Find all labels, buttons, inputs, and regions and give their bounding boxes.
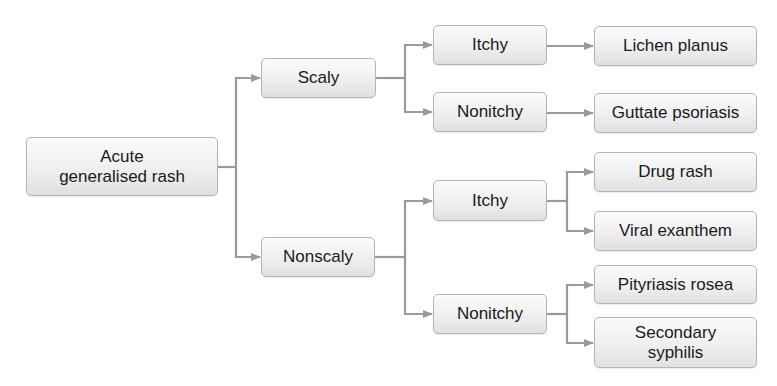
node-label: Nonitchy [457, 102, 523, 122]
node-label: Nonitchy [457, 304, 523, 324]
node-acute-generalised-rash: Acute generalised rash [26, 137, 218, 196]
node-label: Drug rash [638, 162, 713, 182]
node-drug-rash: Drug rash [594, 152, 757, 192]
node-nonscaly: Nonscaly [261, 237, 375, 277]
node-label: Pityriasis rosea [618, 275, 733, 295]
edge-nonscaly-itchy-branches [547, 172, 593, 231]
node-label: Itchy [472, 35, 508, 55]
node-label: Guttate psoriasis [612, 103, 740, 123]
edge-nonscaly-nonitchy-branches [547, 285, 593, 343]
node-pityriasis-rosea: Pityriasis rosea [594, 265, 757, 304]
node-label-line1: Secondary [635, 323, 716, 343]
node-guttate-psoriasis: Guttate psoriasis [594, 93, 757, 133]
node-label: Scaly [298, 68, 340, 88]
node-secondary-syphilis: Secondary syphilis [594, 317, 757, 368]
node-nonscaly-nonitchy: Nonitchy [433, 294, 547, 334]
edge-nonscaly-branches [375, 201, 432, 314]
node-nonscaly-itchy: Itchy [433, 180, 547, 221]
node-label-line2: syphilis [648, 343, 704, 363]
node-label: Itchy [472, 191, 508, 211]
node-label: Lichen planus [623, 36, 728, 56]
node-label: Nonscaly [283, 247, 353, 267]
edge-root-branches [218, 78, 260, 257]
node-lichen-planus: Lichen planus [594, 26, 757, 66]
node-scaly: Scaly [261, 58, 376, 98]
node-label: Viral exanthem [619, 221, 732, 241]
node-scaly-nonitchy: Nonitchy [433, 92, 547, 132]
node-label-line1: Acute [100, 147, 143, 167]
node-viral-exanthem: Viral exanthem [594, 211, 757, 251]
node-scaly-itchy: Itchy [433, 25, 547, 65]
edge-scaly-branches [376, 45, 432, 112]
node-label-line2: generalised rash [59, 167, 185, 187]
